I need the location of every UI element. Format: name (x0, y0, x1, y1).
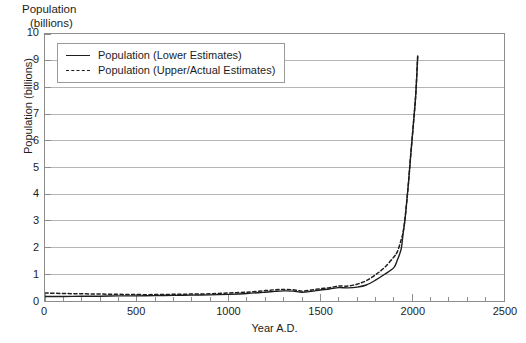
y-tick-label: 3 (9, 215, 39, 226)
legend-item: Population (Lower Estimates) (65, 48, 275, 63)
y-tick-label: 1 (9, 269, 39, 280)
x-axis-title: Year A.D. (44, 322, 505, 334)
y-tick-label: 4 (9, 188, 39, 199)
legend-item-label: Population (Lower Estimates) (98, 49, 242, 62)
y-tick-label: 5 (9, 162, 39, 173)
legend-item: Population (Upper/Actual Estimates) (65, 63, 275, 78)
chart-title-line-1: Population (22, 2, 76, 16)
x-tick-label: 1500 (291, 305, 351, 317)
chart-legend: Population (Lower Estimates)Population (… (57, 43, 285, 83)
data-series-line-2 (45, 55, 418, 294)
x-tick-label: 0 (14, 305, 74, 317)
grid-lines (45, 61, 504, 275)
x-tick-label: 2000 (383, 305, 443, 317)
y-tick-label: 9 (9, 54, 39, 65)
data-series-line-1 (45, 57, 418, 297)
x-tick-label: 500 (106, 305, 166, 317)
y-tick-label: 7 (9, 108, 39, 119)
x-tick-label: 1000 (198, 305, 258, 317)
dashed-line-icon (65, 66, 91, 76)
y-tick-label: 10 (9, 27, 39, 38)
legend-item-label: Population (Upper/Actual Estimates) (98, 64, 275, 77)
data-series-group (45, 55, 418, 296)
y-tick-label: 6 (9, 135, 39, 146)
y-tick-label: 2 (9, 242, 39, 253)
solid-line-icon (65, 51, 91, 61)
x-tick-label: 2500 (475, 305, 526, 317)
y-tick-label: 8 (9, 81, 39, 92)
